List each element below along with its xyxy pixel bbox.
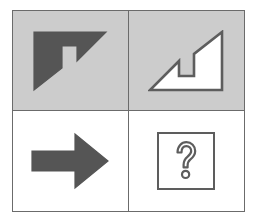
grid-cell-top-left[interactable]: Top left figure: [13, 11, 129, 111]
grid-cell-top-right[interactable]: Top right figure: [129, 11, 245, 111]
block-arrow-right-filled-icon: [29, 131, 111, 191]
grid-cell-bottom-left[interactable]: Bottom left figure: [13, 111, 129, 211]
analogy-grid: Top left figure Top right figure Bottom …: [12, 10, 245, 212]
corner-arrow-down-right-outline-icon: [148, 30, 224, 92]
puzzle-root: Top left figure Top right figure Bottom …: [0, 0, 255, 220]
corner-arrow-up-left-filled-icon: [32, 30, 108, 92]
question-mark-icon: [171, 140, 201, 182]
grid-cell-bottom-right[interactable]: Answer placeholder: [129, 111, 245, 211]
answer-box[interactable]: [157, 132, 215, 190]
